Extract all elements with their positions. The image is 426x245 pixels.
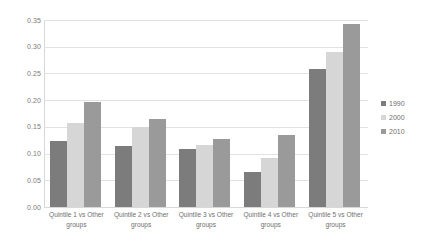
bar-2000 — [67, 123, 84, 207]
legend-item-2010[interactable]: 2010 — [381, 124, 426, 138]
x-axis-category-label: Quintile 2 vs Other groups — [109, 210, 174, 229]
bar-2000 — [196, 145, 213, 207]
x-axis-category-label: Quintile 3 vs Other groups — [174, 210, 239, 229]
bar-group — [109, 20, 174, 207]
y-axis-tick-label: 0.35 — [3, 17, 41, 24]
bar-2010 — [343, 24, 360, 207]
bar-1990 — [50, 141, 67, 207]
legend-label: 2010 — [389, 128, 405, 135]
bar-2000 — [261, 158, 278, 207]
y-axis-tick-label: 0.05 — [3, 177, 41, 184]
bar-group — [44, 20, 109, 207]
bar-1990 — [309, 69, 326, 207]
legend-swatch-icon — [381, 129, 386, 134]
y-axis-tick-label: 0.10 — [3, 150, 41, 157]
legend-item-2000[interactable]: 2000 — [381, 110, 426, 124]
y-axis-tick-label: 0.30 — [3, 43, 41, 50]
legend-label: 2000 — [389, 114, 405, 121]
x-axis-category-label: Quintile 4 vs Other groups — [238, 210, 303, 229]
y-axis-tick-label: 0.00 — [3, 204, 41, 211]
bar-group — [174, 20, 239, 207]
chart-legend: 199020002010 — [381, 96, 426, 138]
bar-2010 — [84, 102, 101, 207]
legend-label: 1990 — [389, 100, 405, 107]
y-axis-tick-label: 0.20 — [3, 97, 41, 104]
x-axis-category-label: Quintile 1 vs Other groups — [44, 210, 109, 229]
bar-chart-figure: 0.000.050.100.150.200.250.300.35 Quintil… — [0, 0, 426, 245]
y-axis-tick-label: 0.25 — [3, 70, 41, 77]
bar-1990 — [115, 146, 132, 207]
bar-group — [238, 20, 303, 207]
bar-1990 — [179, 149, 196, 207]
x-axis-category-label: Quintile 5 vs Other groups — [303, 210, 368, 229]
bar-2010 — [213, 139, 230, 207]
bar-2000 — [326, 52, 343, 207]
legend-item-1990[interactable]: 1990 — [381, 96, 426, 110]
plot-area — [44, 20, 368, 207]
x-axis-category-labels: Quintile 1 vs Other groupsQuintile 2 vs … — [44, 210, 368, 244]
legend-swatch-icon — [381, 115, 386, 120]
bar-2000 — [132, 127, 149, 207]
y-axis-tick-label: 0.15 — [3, 123, 41, 130]
bar-2010 — [149, 119, 166, 207]
bar-group — [303, 20, 368, 207]
bar-2010 — [278, 135, 295, 207]
axis-baseline — [44, 207, 368, 208]
y-axis-tick-labels: 0.000.050.100.150.200.250.300.35 — [0, 0, 41, 245]
bar-1990 — [244, 172, 261, 207]
legend-swatch-icon — [381, 101, 386, 106]
